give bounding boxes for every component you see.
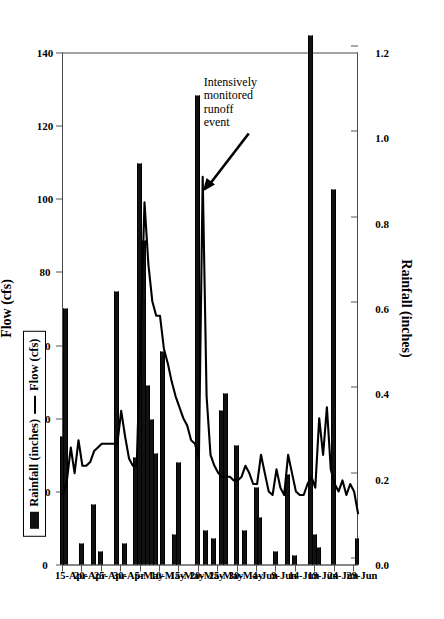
rainfall-bar <box>331 189 336 564</box>
legend-flow-label: Flow (cfs) <box>27 338 42 390</box>
rainfall-bar <box>273 551 278 564</box>
date-tick-label: 29-Jun <box>347 570 378 581</box>
rainfall-bar <box>316 547 321 564</box>
flow-tick-label: 100 <box>28 192 62 204</box>
flow-axis-title: Flow (cfs) <box>0 213 15 403</box>
rainfall-bar <box>242 530 247 564</box>
rainfall-tick-label: 0.4 <box>365 387 399 399</box>
rainfall-bar <box>195 95 200 564</box>
legend-rainfall-label: Rainfall (inches) <box>27 418 42 506</box>
rainfall-bar <box>114 291 119 564</box>
chart-legend: Rainfall (inches) Flow (cfs) <box>23 330 46 536</box>
rainfall-bar <box>257 517 262 564</box>
rainfall-bar <box>91 504 96 564</box>
rainfall-bar <box>292 555 297 564</box>
rainfall-bar <box>122 543 127 564</box>
rainfall-axis-title: Rainfall (inches) <box>398 213 414 403</box>
rainfall-bar <box>285 474 290 564</box>
rainfall-bar <box>160 351 165 564</box>
rainfall-bar <box>308 35 313 564</box>
legend-flow-line-icon <box>34 395 36 413</box>
flow-tick-label: 0 <box>28 558 62 570</box>
rainfall-bar <box>234 445 239 564</box>
rainfall-tick-label: 0.8 <box>365 217 399 229</box>
legend-rainfall-swatch-icon <box>30 511 39 528</box>
rotated-chart-canvas: 1.21.00.80.60.40.20.0 140120100806040200… <box>0 0 444 619</box>
figure-root: 1.21.00.80.60.40.20.0 140120100806040200… <box>0 0 444 619</box>
annotation-line-3: runoff <box>203 102 256 115</box>
rainfall-tick-label: 0.0 <box>365 558 399 570</box>
rainfall-tick-label: 1.0 <box>365 131 399 143</box>
annotation-text: Intensively monitored runoff event <box>203 75 256 129</box>
rainfall-bar <box>176 462 181 564</box>
rainfall-bar <box>153 453 158 564</box>
rainfall-bar <box>223 393 228 564</box>
rainfall-bar <box>79 543 84 564</box>
rainfall-tick-label: 0.2 <box>365 473 399 485</box>
rainfall-bar <box>63 308 68 564</box>
flow-tick-label: 80 <box>28 265 62 277</box>
annotation-line-2: monitored <box>203 89 256 102</box>
rainfall-bar <box>203 530 208 564</box>
rainfall-bar <box>355 538 360 564</box>
rainfall-tick <box>351 45 358 46</box>
rainfall-tick-label: 1.2 <box>365 46 399 58</box>
flow-tick-label: 140 <box>28 46 62 58</box>
rainfall-bar <box>211 538 216 564</box>
flow-tick-label: 120 <box>28 119 62 131</box>
annotation-line-1: Intensively <box>203 75 256 88</box>
rainfall-axis-rule <box>357 52 358 564</box>
rainfall-bar <box>98 551 103 564</box>
annotation-line-4: event <box>203 116 256 129</box>
rainfall-tick-label: 0.6 <box>365 302 399 314</box>
rainfall-axis-line <box>63 52 358 53</box>
